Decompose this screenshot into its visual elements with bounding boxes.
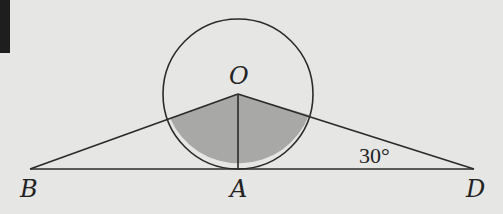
label-a: A (228, 175, 247, 203)
label-b: B (19, 175, 38, 203)
geometry-diagram: O A B D 30° (0, 0, 503, 214)
label-d: D (465, 175, 485, 203)
angle-label-d: 30° (359, 143, 390, 168)
corner-block (0, 0, 10, 53)
label-o: O (229, 62, 249, 90)
